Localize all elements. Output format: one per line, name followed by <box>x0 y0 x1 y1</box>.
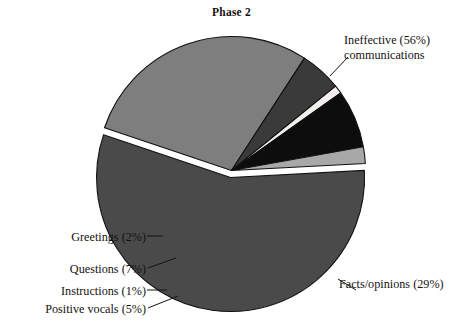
slice-label-instructions: Instructions (1%) <box>8 284 146 299</box>
slice-label-ineffective: Ineffective (56%) communications <box>344 33 430 63</box>
slice-label-facts: Facts/opinions (29%) <box>339 277 444 292</box>
slice-label-ineffective-line1: Ineffective (56%) <box>344 33 430 48</box>
slice-label-facts-line1: Facts/opinions (29%) <box>339 277 444 292</box>
slice-label-instructions-line1: Instructions (1%) <box>8 284 146 299</box>
slice-label-greetings-line1: Greetings (2%) <box>8 230 146 245</box>
slice-label-positive-vocals-line1: Positive vocals (5%) <box>8 302 146 317</box>
pie-chart-figure: Phase 2 Ineffective (56%) communications… <box>0 0 463 333</box>
leader-line-positive-vocals <box>148 296 178 308</box>
slice-label-questions-line1: Questions (7%) <box>8 262 146 277</box>
slice-label-positive-vocals: Positive vocals (5%) <box>8 302 146 317</box>
slice-label-ineffective-line2: communications <box>344 48 430 63</box>
slice-label-questions: Questions (7%) <box>8 262 146 277</box>
slice-label-greetings: Greetings (2%) <box>8 230 146 245</box>
